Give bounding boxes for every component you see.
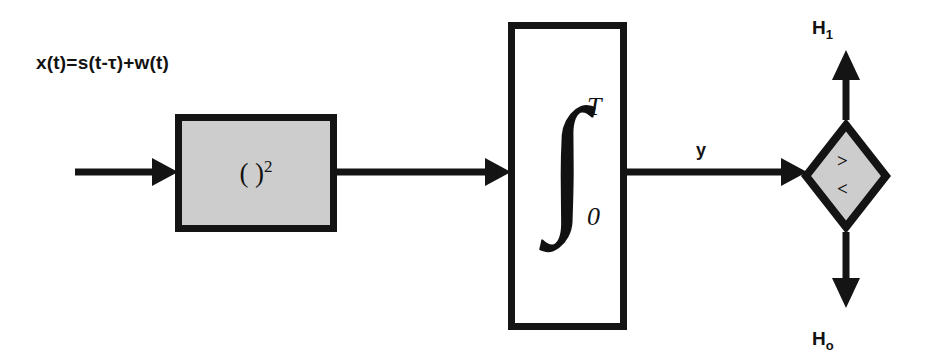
squarer-block: ( )2 bbox=[175, 114, 337, 232]
decision-diamond-block: > < bbox=[801, 120, 891, 232]
hypothesis-h1-letter: H bbox=[812, 17, 826, 38]
integral-sign: ∫ bbox=[547, 86, 588, 236]
hypothesis-h1-subscript: 1 bbox=[826, 27, 833, 42]
hypothesis-h1-label: H1 bbox=[812, 17, 833, 39]
arrow-input-to-squarer bbox=[75, 158, 178, 186]
comparator-greater-than-symbol: > bbox=[837, 150, 848, 172]
integral-upper-limit: T bbox=[587, 92, 601, 122]
decision-diamond-shape bbox=[801, 120, 891, 232]
integral-lower-limit: 0 bbox=[587, 202, 600, 232]
arrow-decision-to-h1 bbox=[832, 50, 860, 120]
signal-y-label: y bbox=[696, 140, 706, 161]
hypothesis-h0-letter: H bbox=[812, 328, 826, 349]
squarer-block-label: ( )2 bbox=[239, 160, 272, 187]
hypothesis-h0-subscript: o bbox=[826, 338, 834, 353]
arrow-integrator-to-decision bbox=[627, 158, 807, 186]
input-signal-equation: x(t)=s(t-τ)+w(t) bbox=[36, 52, 169, 74]
arrow-squarer-to-integrator bbox=[337, 158, 511, 186]
integral-symbol-group: ∫ T 0 bbox=[543, 92, 623, 242]
squarer-exponent: 2 bbox=[264, 157, 273, 176]
comparator-less-than-symbol: < bbox=[837, 178, 848, 200]
squarer-parens: ( ) bbox=[239, 158, 264, 188]
arrow-decision-to-h0 bbox=[832, 232, 860, 308]
hypothesis-h0-label: Ho bbox=[812, 328, 834, 350]
